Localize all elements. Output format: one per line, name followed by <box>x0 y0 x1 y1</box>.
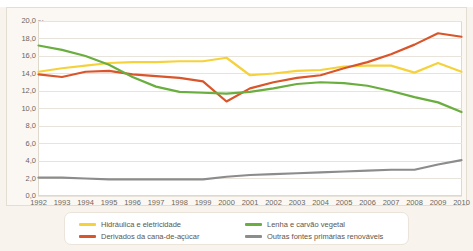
series-line-0 <box>39 58 462 76</box>
legend-item-lenha: Lenha e carvão vegetal <box>245 220 345 229</box>
y-tick-label: 10,0 <box>2 105 36 113</box>
chart-legend: Hidráulica e eletricidade Derivados da c… <box>64 212 409 245</box>
clipped-top-strip <box>0 0 473 7</box>
y-tick-label: 18,0 <box>2 35 36 43</box>
y-tick-label: 2,0 <box>2 175 36 183</box>
chart-figure: % 0,02,04,06,08,010,012,014,016,018,020,… <box>0 0 473 251</box>
y-tick-label: 4,0 <box>2 157 36 165</box>
series-line-3 <box>39 160 462 179</box>
y-tick-label: 16,0 <box>2 52 36 60</box>
y-tick-label: 20,0 <box>2 17 36 25</box>
y-tick-label: 12,0 <box>2 87 36 95</box>
y-tick-label: 8,0 <box>2 122 36 130</box>
legend-swatch-lenha <box>245 223 262 226</box>
legend-label-lenha: Lenha e carvão vegetal <box>267 220 345 229</box>
legend-swatch-hidraulica <box>79 223 96 226</box>
y-axis-tick-labels: 0,02,04,06,08,010,012,014,016,018,020,0 <box>0 21 36 196</box>
y-tick-label: 6,0 <box>2 140 36 148</box>
legend-label-hidraulica: Hidráulica e eletricidade <box>101 220 181 229</box>
y-tick-label: 14,0 <box>2 70 36 78</box>
legend-item-hidraulica: Hidráulica e eletricidade <box>79 220 181 229</box>
legend-item-outras: Outras fontes primárias renováveis <box>245 232 383 241</box>
plot-area-wrapper <box>38 21 462 196</box>
legend-swatch-cana <box>79 235 96 238</box>
x-tick-label: 2010 <box>447 198 473 207</box>
legend-label-cana: Derivados da cana-de-açúcar <box>101 232 199 241</box>
series-line-2 <box>39 46 462 113</box>
chart-lines <box>38 21 462 196</box>
legend-item-cana: Derivados da cana-de-açúcar <box>79 232 199 241</box>
x-axis-tick-labels: 1992199319941995199619971998199920002001… <box>38 198 462 210</box>
legend-swatch-outras <box>245 235 262 238</box>
legend-label-outras: Outras fontes primárias renováveis <box>267 232 383 241</box>
